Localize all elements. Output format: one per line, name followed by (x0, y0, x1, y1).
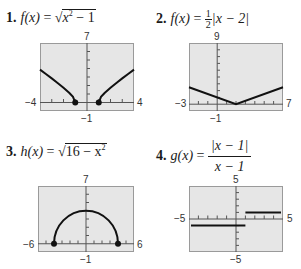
equation-2: 2.f(x) = 12|x − 2| (156, 9, 249, 30)
radicand: 16 − x2 (65, 143, 107, 159)
graph-3 (38, 186, 134, 252)
equation-4: 4.g(x) = |x − 1|x − 1 (156, 138, 251, 175)
ymin-label: −1 (81, 114, 92, 124)
xmax-label: 7 (286, 99, 292, 109)
equation-3: 3.h(x) = √16 − x2 (6, 143, 107, 159)
xmax-label: 4 (137, 98, 143, 108)
endpoint-marker (96, 100, 102, 106)
endpoint-marker (115, 241, 121, 247)
graph-1 (40, 43, 134, 111)
problem-number: 2. (156, 11, 167, 26)
rational-expression: |x − 1|x − 1 (208, 138, 251, 175)
coefficient-fraction: 12 (205, 9, 212, 30)
plot-frame (190, 44, 283, 111)
xmax-label: 5 (287, 214, 293, 224)
endpoint-marker (72, 100, 78, 106)
function-name: f(x) (171, 11, 190, 26)
endpoint-marker (51, 241, 57, 247)
problem-number: 4. (156, 148, 167, 163)
xmin-label: −5 (174, 214, 185, 224)
equation-1: 1.f(x) = √x2 − 1 (6, 9, 96, 25)
function-name: f(x) (21, 10, 40, 25)
ymax-label: 7 (84, 32, 90, 42)
equals-sign: = (197, 148, 205, 163)
equals-sign: = (43, 10, 51, 25)
xmin-label: −4 (25, 98, 36, 108)
equals-sign: = (47, 144, 55, 159)
ymax-label: 7 (83, 175, 89, 185)
graph-2 (189, 43, 283, 111)
graph-4 (189, 186, 283, 252)
abs-expression: |x − 2| (212, 11, 249, 26)
equals-sign: = (193, 11, 201, 26)
xmin-label: −3 (175, 99, 186, 109)
problem-number: 3. (6, 144, 17, 159)
ymin-label: −1 (80, 255, 91, 265)
xmax-label: 6 (137, 240, 143, 250)
ymax-label: 9 (214, 32, 220, 42)
ymin-label: −1 (210, 114, 221, 124)
function-name: g(x) (171, 148, 194, 163)
problem-number: 1. (6, 10, 17, 25)
function-name: h(x) (21, 144, 44, 159)
radicand: x2 − 1 (62, 9, 96, 25)
ymin-label: −5 (230, 255, 241, 265)
xmin-label: −6 (23, 240, 34, 250)
ymax-label: 5 (233, 175, 239, 185)
